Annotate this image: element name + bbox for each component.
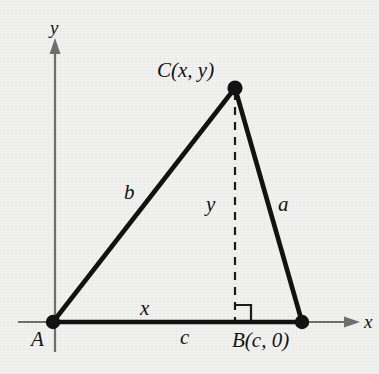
- side-a-segment: [235, 88, 302, 322]
- vertex-label-a: A: [31, 329, 44, 350]
- side-label-a: a: [278, 194, 289, 215]
- axes-group: [18, 38, 360, 352]
- segment-label-y: y: [206, 194, 215, 215]
- vertex-dot-b: [295, 315, 309, 329]
- y-axis-arrow-icon: [50, 38, 61, 54]
- vertex-label-c: C(x, y): [157, 60, 214, 81]
- triangle-diagram: [0, 0, 379, 374]
- y-axis-label: y: [50, 18, 58, 37]
- x-axis-label: x: [364, 312, 372, 331]
- vertex-dot-a: [46, 315, 60, 329]
- x-axis-arrow-icon: [344, 317, 360, 328]
- segment-label-x: x: [140, 298, 149, 319]
- vertex-label-b: B(c, 0): [232, 330, 289, 351]
- geometry-figure: y x C(x, y) A B(c, 0) b a c x y: [0, 0, 379, 374]
- side-label-c: c: [180, 327, 189, 348]
- vertex-dot-c: [227, 80, 242, 95]
- triangle-sides-group: [53, 88, 302, 322]
- right-angle-marker-icon: [235, 305, 251, 321]
- side-label-b: b: [124, 182, 135, 203]
